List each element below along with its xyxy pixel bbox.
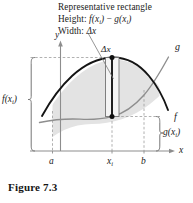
brace-g-paren-close: )	[177, 127, 180, 137]
tick-label-a: a	[49, 157, 54, 167]
annotation-line-2: Height: f(xi) − g(xi)	[58, 15, 131, 25]
x-axis-label: x	[179, 146, 183, 156]
point-on-g	[110, 114, 115, 119]
figure-caption: Figure 7.3	[8, 181, 57, 193]
annotation-minus: −	[104, 14, 114, 24]
annotation-delta-x: Δx	[86, 26, 96, 36]
annotation-line-3: Width: Δx	[58, 27, 96, 36]
rectangle-delta-x-label: Δx	[101, 45, 110, 54]
annotation-g-paren-close: )	[128, 14, 131, 24]
point-on-f	[110, 55, 115, 60]
annotation-height-prefix: Height:	[58, 14, 89, 24]
curve-label-f: f	[174, 112, 177, 122]
figure-7-3: Representative rectangle Height: f(xi) −…	[0, 0, 193, 203]
figure-graphic	[0, 0, 193, 203]
y-axis-label: y	[55, 31, 59, 41]
tick-label-xi: xi	[107, 157, 113, 167]
y-axis-arrowhead	[58, 41, 63, 47]
curve-label-g: g	[175, 42, 180, 52]
brace-f-paren-close: )	[14, 94, 17, 104]
tick-label-b: b	[141, 157, 146, 167]
annotation-line-1: Representative rectangle	[58, 3, 152, 12]
brace-label-g-xi: g(xi)	[163, 128, 180, 138]
annotation-width-prefix: Width:	[58, 26, 86, 36]
brace-label-f-xi: f(xi)	[2, 95, 17, 105]
tick-label-xi-sub: i	[111, 160, 113, 167]
